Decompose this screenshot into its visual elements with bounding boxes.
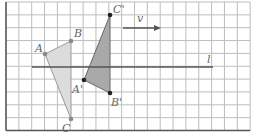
- label-B-prime: B': [110, 96, 122, 109]
- label-C-prime: C': [113, 3, 124, 16]
- vector-v-arrow-icon: [123, 25, 161, 31]
- triangle-abc-shape: [45, 41, 71, 119]
- point-B-prime: [108, 91, 113, 96]
- point-C: [69, 117, 74, 122]
- reflection-translation-diagram: ABCA'B'C'lv: [0, 0, 263, 135]
- label-A-prime: A': [71, 83, 83, 96]
- label-l: l: [207, 53, 211, 66]
- point-A: [43, 52, 48, 57]
- label-C: C: [62, 122, 71, 135]
- point-B: [69, 39, 74, 44]
- point-C-prime: [108, 13, 113, 18]
- triangle-abc: [43, 39, 74, 122]
- label-A: A: [34, 42, 43, 55]
- label-B: B: [73, 27, 82, 40]
- triangle-a-prime-b-prime-c-prime: [82, 13, 113, 96]
- label-v: v: [137, 12, 144, 25]
- point-A-prime: [82, 78, 87, 83]
- triangle-image-shape: [84, 15, 110, 93]
